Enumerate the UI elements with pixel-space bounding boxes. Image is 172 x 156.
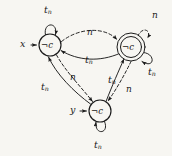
automaton-diagram: ¬c ¬c ¬c x y tn n n tn tn n tn tn n tn [0,0,172,156]
state-label-bottom: ¬c [91,107,103,116]
input-label-y: y [70,105,75,115]
state-label-left: ¬c [41,41,53,50]
edge-bottom-selfloop [96,122,106,132]
edge-label-mid-t-sub: n [89,58,93,65]
edge-label-right-n-base: n [126,84,132,94]
automaton-canvas [0,0,172,156]
edge-label-right-t-sub: n [112,78,116,85]
edge-label-bottom-selfloop: tn [94,140,102,151]
edge-label-mid-t: tn [85,55,93,66]
state-label-right: ¬c [122,43,134,52]
input-label-y-text: y [70,104,75,115]
edge-label-left-selfloop-sub: n [48,8,52,15]
state-letter-right: c [129,42,134,52]
edge-label-left-n-base: n [70,72,76,82]
edge-label-left-selfloop: tn [44,5,52,16]
edge-label-right-selfloop-t: tn [148,67,156,78]
input-label-x: x [20,39,25,49]
edge-label-top-n: n [87,28,93,37]
edge-label-left-n: n [70,73,76,82]
edge-label-right-selfloop-n: n [152,11,158,20]
edge-label-top-n-base: n [87,27,93,37]
edge-label-bottom-selfloop-sub: n [98,143,102,150]
edge-label-left-t-sub: n [45,85,49,92]
input-label-x-text: x [20,38,25,49]
edge-label-right-selfloop-n-base: n [152,10,158,20]
edge-label-left-t: tn [41,82,49,93]
state-letter-left: c [48,40,53,50]
edge-label-right-selfloop-t-sub: n [152,70,156,77]
edge-label-right-n: n [126,85,132,94]
edge-label-right-t: tn [108,75,116,86]
state-letter-bottom: c [98,106,103,116]
